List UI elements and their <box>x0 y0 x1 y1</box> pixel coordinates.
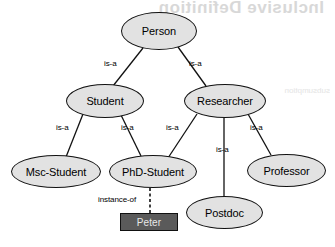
node-label-phd: PhD-Student <box>122 166 184 178</box>
edge-label-student-phd: is-a <box>121 123 134 132</box>
node-person[interactable]: Person <box>121 12 197 50</box>
node-label-student: Student <box>86 95 123 107</box>
edge-label-researcher-postdoc: is-a <box>216 145 229 154</box>
diagram-canvas: Inclusive Definition subsumption PersonS… <box>0 0 335 247</box>
node-researcher[interactable]: Researcher <box>184 84 266 118</box>
node-msc[interactable]: Msc-Student <box>11 155 101 188</box>
node-label-professor: Professor <box>263 165 309 177</box>
edge-researcher-prof <box>248 114 271 155</box>
edge-label-student-msc: is-a <box>56 123 69 132</box>
edge-person-student <box>113 48 143 86</box>
node-label-postdoc: Postdoc <box>205 207 244 219</box>
node-phd[interactable]: PhD-Student <box>109 155 197 188</box>
node-peter[interactable]: Peter <box>120 213 178 231</box>
edge-label-researcher-professor: is-a <box>250 123 263 132</box>
node-label-researcher: Researcher <box>197 95 253 107</box>
edge-researcher-phd <box>168 114 197 158</box>
node-postdoc[interactable]: Postdoc <box>186 196 263 229</box>
edge-label-researcher-phd: is-a <box>166 123 179 132</box>
edge-label-person-researcher: is-a <box>189 59 202 68</box>
edge-student-phd <box>121 115 141 156</box>
edge-student-msc <box>66 114 83 157</box>
node-label-person: Person <box>142 25 176 37</box>
node-professor[interactable]: Professor <box>247 154 326 187</box>
node-label-peter: Peter <box>137 217 161 228</box>
node-label-msc: Msc-Student <box>26 166 87 178</box>
edge-label-person-student: is-a <box>104 59 117 68</box>
node-student[interactable]: Student <box>66 84 144 118</box>
edge-label-phd-peter: instance-of <box>98 195 136 204</box>
